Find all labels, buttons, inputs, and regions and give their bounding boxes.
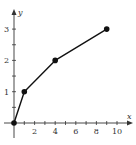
data-point-marker xyxy=(52,58,58,64)
data-line xyxy=(14,29,107,123)
y-tick-label: 2 xyxy=(4,56,9,65)
tick-labels: 246810123 xyxy=(4,25,122,136)
x-tick-label: 6 xyxy=(73,127,78,136)
y-axis-arrow-icon xyxy=(12,9,17,15)
x-tick-label: 8 xyxy=(94,127,99,136)
x-tick-label: 4 xyxy=(53,127,58,136)
x-axis-label: x xyxy=(127,112,132,121)
axes xyxy=(4,9,133,138)
y-tick-label: 1 xyxy=(4,88,9,97)
line-chart: 246810123 x y xyxy=(0,0,136,145)
x-axis-arrow-icon xyxy=(127,121,133,126)
data-point-marker xyxy=(104,26,110,32)
y-tick-label: 3 xyxy=(4,25,9,34)
ticks xyxy=(12,29,117,125)
x-tick-label: 10 xyxy=(112,127,122,136)
data-point-marker xyxy=(22,89,28,95)
x-tick-label: 2 xyxy=(32,127,37,136)
data-markers xyxy=(11,26,109,126)
data-point-marker xyxy=(11,120,17,126)
y-axis-label: y xyxy=(17,8,23,17)
